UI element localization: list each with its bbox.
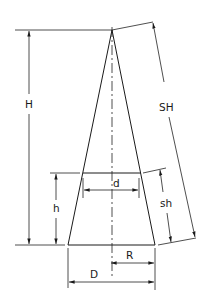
sh-arrow-upper [160,170,163,192]
cone-right-edge [112,30,155,245]
R-label: R [126,249,133,261]
SH-label: SH [159,101,174,113]
H-dimension: H [25,31,33,244]
h-label: h [53,202,60,214]
cone-dimension-diagram: H SH h sh d R D [0,0,205,301]
cone-left-edge [68,30,112,245]
d-dimension: d [84,177,138,190]
SH-arrow-upper [153,23,164,82]
D-label: D [90,268,98,280]
sh-arrow-lower [167,213,171,242]
sh-label: sh [160,197,172,209]
d-label: d [113,177,120,189]
base-slant-extension-line [158,238,196,245]
sh-top-extension-line [143,168,166,173]
slant-top-extension-line [112,22,153,30]
D-dimension: D [69,268,154,282]
SH-arrow-lower [169,117,195,237]
R-dimension: R [111,249,154,263]
sh-dimension: sh [160,170,172,242]
cone-outline [68,30,155,245]
H-label: H [25,98,33,110]
h-dimension: h [53,174,60,244]
